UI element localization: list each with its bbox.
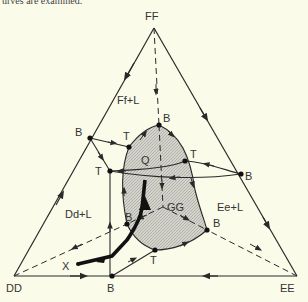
point-label-t-left: T <box>95 165 102 177</box>
region-label-ff-l: Ff+L <box>117 94 139 106</box>
point-label-b-right: B <box>245 170 252 182</box>
region-label-gg: GG <box>167 201 184 213</box>
point-label-q: Q <box>141 154 150 166</box>
gg-field-shaded <box>123 125 207 250</box>
point-label-t-bottom: T <box>150 254 157 266</box>
vertex-label-ff: FF <box>145 10 159 22</box>
caption-fragment: urves are examined. <box>2 0 82 6</box>
diagram-canvas: urves are examined. <box>0 0 308 302</box>
point-label-b-top: B <box>163 112 170 124</box>
vertex-label-dd: DD <box>6 282 22 294</box>
point-label-x: X <box>62 260 70 272</box>
ternary-phase-diagram: urves are examined. <box>0 0 308 302</box>
point-label-t-upper: T <box>123 130 130 142</box>
point-label-b-inner-left: B <box>125 211 132 223</box>
region-label-ee-l: Ee+L <box>217 201 243 213</box>
point-label-b-inner-right: B <box>213 217 220 229</box>
point-label-b-bottom: B <box>107 282 114 294</box>
vertex-label-ee: EE <box>280 282 295 294</box>
region-label-dd-l: Dd+L <box>65 208 92 220</box>
point-label-b-left: B <box>75 126 82 138</box>
point-label-t-right: T <box>190 148 197 160</box>
